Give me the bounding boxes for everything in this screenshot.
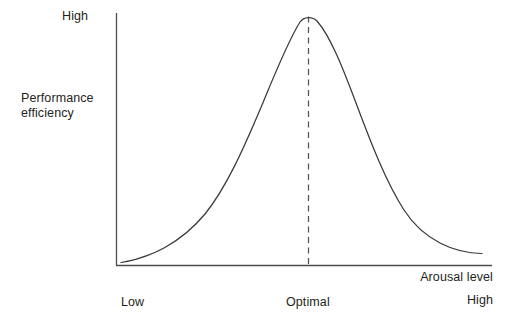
y-axis-title: Performanceefficiency (21, 91, 94, 121)
performance-curve (121, 18, 482, 263)
y-axis-title-line2: efficiency (21, 106, 74, 120)
yerkes-dodson-chart: High Performanceefficiency Low Optimal A… (0, 0, 519, 325)
x-axis-low-label: Low (121, 295, 144, 310)
y-axis-high-label: High (62, 9, 88, 24)
x-axis-title: Arousal level (337, 270, 493, 285)
y-axis-title-line1: Performance (21, 91, 94, 105)
x-axis-high-label: High (337, 293, 493, 308)
x-axis-optimal-label: Optimal (286, 295, 330, 310)
